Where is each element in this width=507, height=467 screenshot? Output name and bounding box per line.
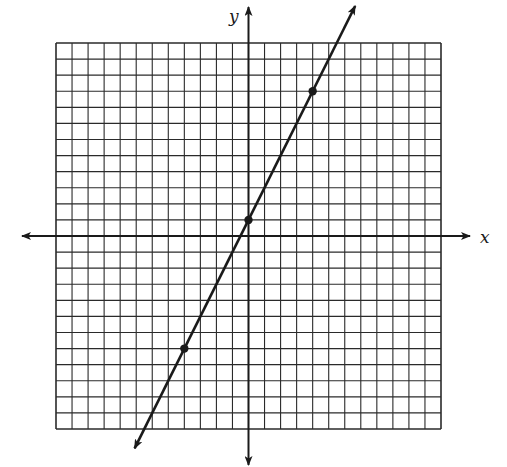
data-point [244, 216, 252, 224]
x-axis-label: x [480, 227, 490, 247]
plotted-line [135, 6, 356, 448]
line-segment-lower [135, 220, 249, 448]
data-point [308, 87, 316, 95]
y-axis-label: y [228, 6, 239, 26]
coordinate-plane: x y [0, 0, 507, 467]
data-point [180, 344, 188, 352]
